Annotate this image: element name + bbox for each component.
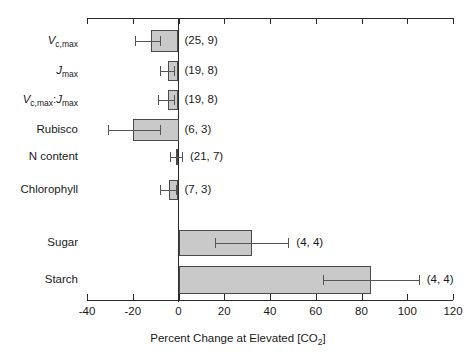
bottom-tick-120 — [453, 294, 454, 300]
top-tick-20 — [224, 18, 225, 24]
error-bar-line — [215, 243, 288, 244]
top-tick-100 — [407, 18, 408, 24]
error-bar-line — [158, 100, 174, 101]
top-tick-0 — [179, 18, 180, 24]
category-label-n-content: N content — [0, 150, 78, 162]
x-tick-label: 0 — [175, 305, 181, 317]
bottom-tick--40 — [87, 294, 88, 300]
error-bar-cap-high — [160, 125, 161, 135]
error-bar-cap-low — [170, 152, 171, 162]
top-tick-120 — [453, 18, 454, 24]
top-tick--20 — [133, 18, 134, 24]
sample-size-label: (6, 3) — [185, 123, 212, 135]
error-bar-cap-high — [174, 66, 175, 76]
error-bar-cap-low — [160, 66, 161, 76]
x-tick-label: 100 — [398, 305, 417, 317]
x-tick-label: 40 — [264, 305, 277, 317]
top-tick-80 — [362, 18, 363, 24]
error-bar-cap-low — [135, 36, 136, 46]
sample-size-label: (4, 4) — [427, 273, 454, 285]
category-label-rubisco: Rubisco — [0, 123, 78, 135]
top-tick-40 — [270, 18, 271, 24]
bottom-axis-line — [87, 300, 453, 301]
x-tick-label: 60 — [309, 305, 322, 317]
bottom-tick-40 — [270, 294, 271, 300]
error-bar-cap-high — [160, 36, 161, 46]
top-tick--40 — [87, 18, 88, 24]
error-bar-cap-low — [108, 125, 109, 135]
x-tick-label: 80 — [355, 305, 368, 317]
sample-size-label: (25, 9) — [185, 34, 218, 46]
error-bar-cap-low — [160, 185, 161, 195]
x-axis-title-text-before: Percent Change at Elevated [CO — [150, 332, 318, 344]
x-tick-label: 20 — [218, 305, 231, 317]
top-tick-60 — [316, 18, 317, 24]
error-bar-cap-low — [215, 238, 216, 248]
x-axis-title-subscript: 2 — [318, 337, 323, 347]
category-label-chlorophyll: Chlorophyll — [0, 183, 78, 195]
category-label-vc-max-jmax: Vc,max:Jmax — [0, 93, 78, 106]
error-bar-cap-high — [174, 95, 175, 105]
category-label-starch: Starch — [0, 273, 78, 285]
bottom-tick-80 — [362, 294, 363, 300]
error-bar-line — [160, 190, 176, 191]
error-bar-line — [323, 280, 419, 281]
category-label-vc-max: Vc,max — [0, 34, 78, 47]
error-bar-line — [108, 130, 161, 131]
error-bar-cap-high — [288, 238, 289, 248]
x-tick-label: -20 — [124, 305, 141, 317]
error-bar-cap-high — [182, 152, 183, 162]
error-bar-cap-low — [323, 275, 324, 285]
sample-size-label: (21, 7) — [190, 150, 223, 162]
bottom-tick-20 — [224, 294, 225, 300]
error-bar-line — [170, 157, 181, 158]
sample-size-label: (4, 4) — [296, 236, 323, 248]
x-axis-title: Percent Change at Elevated [CO2] — [0, 332, 476, 346]
error-bar-cap-high — [176, 185, 177, 195]
chart-container: -40-20020406080100120 Vc,max(25, 9)Jmax(… — [0, 0, 476, 355]
bottom-tick-100 — [407, 294, 408, 300]
x-tick-label: -40 — [79, 305, 96, 317]
category-label-jmax: Jmax — [0, 64, 78, 77]
sample-size-label: (19, 8) — [185, 93, 218, 105]
sample-size-label: (19, 8) — [185, 64, 218, 76]
bottom-tick--20 — [133, 294, 134, 300]
error-bar-cap-low — [158, 95, 159, 105]
error-bar-line — [160, 71, 174, 72]
bottom-tick-60 — [316, 294, 317, 300]
sample-size-label: (7, 3) — [185, 183, 212, 195]
x-tick-label: 120 — [443, 305, 462, 317]
error-bar-cap-high — [419, 275, 420, 285]
category-label-sugar: Sugar — [0, 236, 78, 248]
error-bar-line — [135, 41, 160, 42]
bottom-tick-0 — [179, 294, 180, 300]
